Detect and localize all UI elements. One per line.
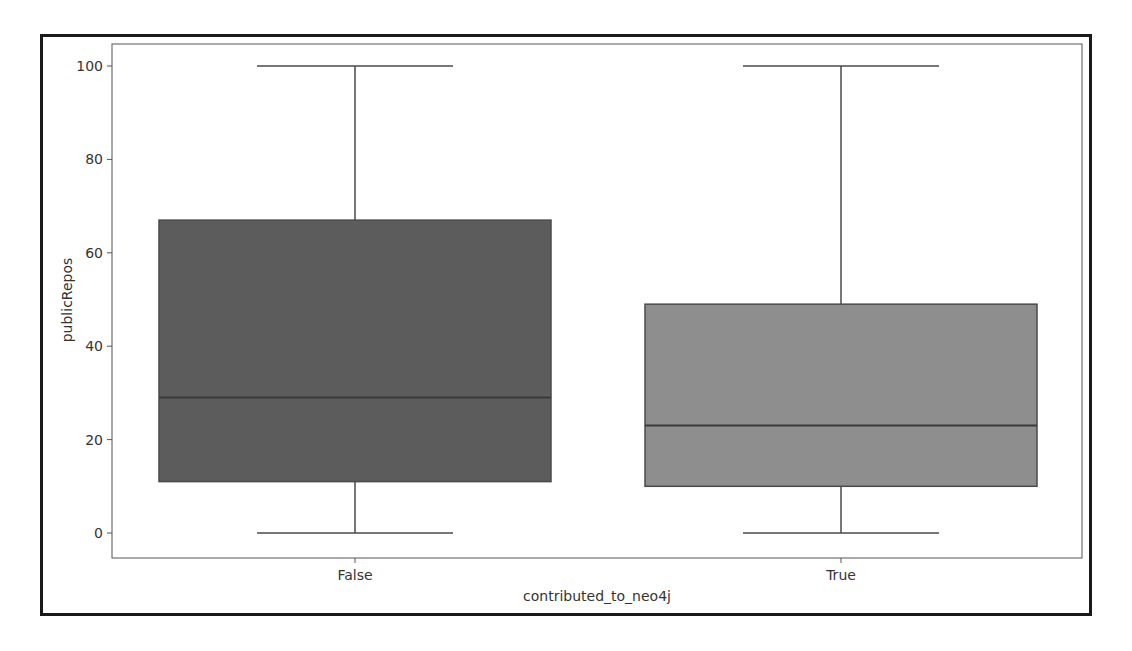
iqr-box (159, 220, 551, 482)
y-tick-label: 60 (85, 245, 103, 261)
y-axis-label: publicRepos (59, 258, 75, 343)
y-axis: 020406080100 (76, 58, 112, 541)
y-tick-label: 20 (85, 432, 103, 448)
y-tick-label: 40 (85, 338, 103, 354)
x-axis: FalseTrue (337, 558, 855, 583)
boxplot-chart: 020406080100 FalseTrue contributed_to_ne… (0, 0, 1132, 651)
y-tick-label: 0 (94, 525, 103, 541)
x-tick-label: False (337, 567, 372, 583)
iqr-box (645, 304, 1037, 486)
x-tick-label: True (825, 567, 856, 583)
y-tick-label: 80 (85, 151, 103, 167)
x-axis-label: contributed_to_neo4j (523, 588, 671, 604)
y-tick-label: 100 (76, 58, 103, 74)
